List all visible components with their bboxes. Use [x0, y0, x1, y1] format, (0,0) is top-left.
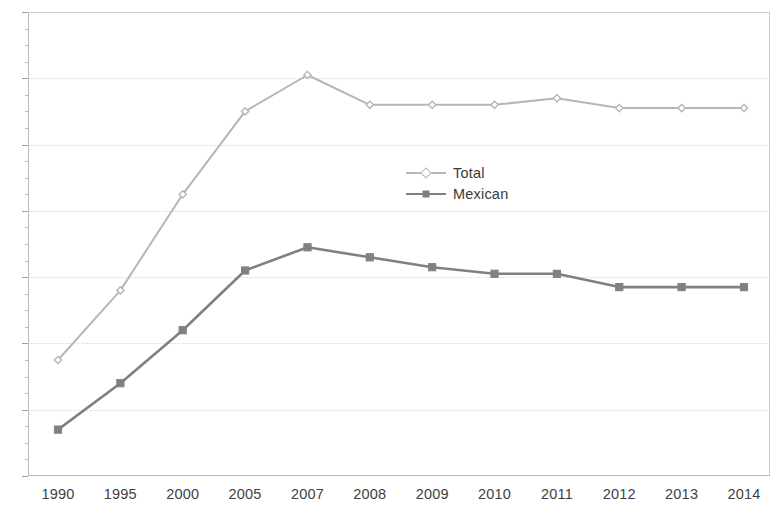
data-point-marker [678, 105, 685, 112]
data-point-marker [678, 284, 685, 291]
x-tick-label: 2011 [541, 486, 573, 502]
data-point-marker [54, 426, 61, 433]
plot-area [28, 12, 770, 476]
legend-label: Total [453, 165, 485, 181]
series-line [58, 75, 744, 360]
series-mexican [54, 244, 747, 434]
legend-item-total: Total [406, 162, 508, 183]
x-tick-label: 2010 [478, 486, 511, 502]
x-tick-label: 2008 [353, 486, 386, 502]
legend-diamond-marker-icon [420, 167, 431, 178]
data-point-marker [117, 380, 124, 387]
legend-swatch-mexican [406, 187, 446, 201]
series-layer [28, 12, 770, 476]
x-tick-label: 2000 [166, 486, 199, 502]
x-tick-label: 2013 [665, 486, 698, 502]
x-tick-label: 2012 [603, 486, 636, 502]
legend-square-marker-icon [423, 190, 430, 197]
data-point-marker [242, 267, 249, 274]
chart-figure: 0246810121419901995200020052007200820092… [0, 0, 782, 510]
data-point-marker [616, 105, 623, 112]
data-point-marker [429, 101, 436, 108]
data-point-marker [491, 101, 498, 108]
data-point-marker [553, 270, 560, 277]
x-tick-label: 1995 [104, 486, 137, 502]
x-tick-label: 1990 [41, 486, 74, 502]
y-tick-mark [22, 476, 28, 477]
legend-item-mexican: Mexican [406, 183, 508, 204]
data-point-marker [366, 254, 373, 261]
series-total [54, 71, 747, 363]
data-point-marker [553, 95, 560, 102]
x-tick-label: 2014 [727, 486, 760, 502]
data-point-marker [429, 264, 436, 271]
data-point-marker [740, 284, 747, 291]
data-point-marker [740, 105, 747, 112]
data-point-marker [366, 101, 373, 108]
x-tick-label: 2009 [416, 486, 449, 502]
legend-label: Mexican [453, 186, 508, 202]
x-tick-label: 2007 [291, 486, 324, 502]
chart-legend: TotalMexican [406, 162, 508, 204]
data-point-marker [491, 270, 498, 277]
legend-swatch-total [406, 166, 446, 180]
data-point-marker [616, 284, 623, 291]
x-tick-label: 2005 [229, 486, 262, 502]
series-line [58, 247, 744, 429]
data-point-marker [304, 244, 311, 251]
data-point-marker [179, 327, 186, 334]
